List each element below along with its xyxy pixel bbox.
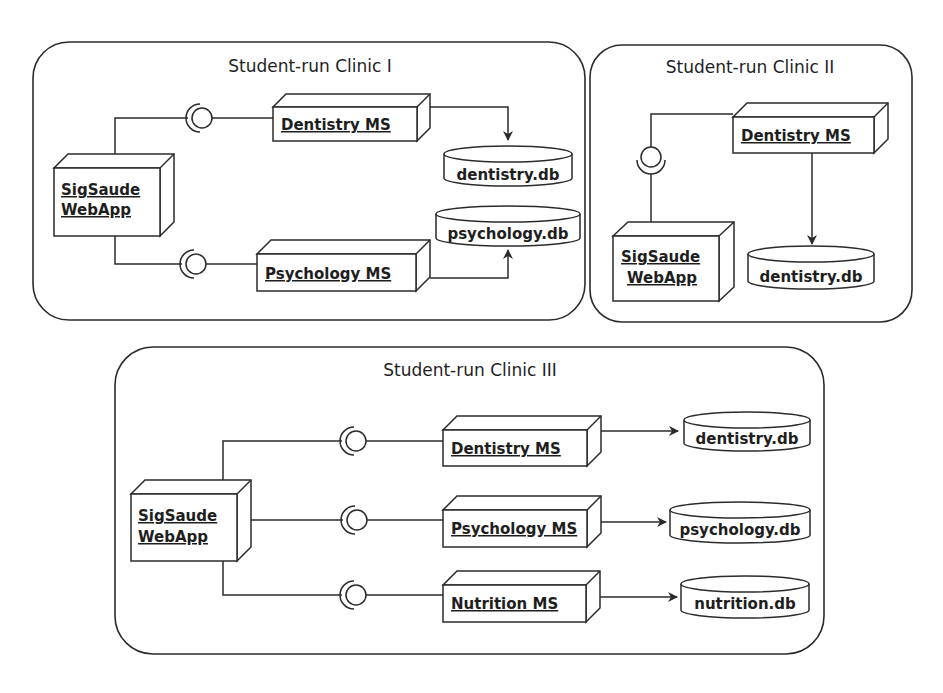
clinic-3-webapp-label-line2: WebApp (138, 528, 208, 546)
clinic-1-dentistry-db-label: dentistry.db (457, 166, 560, 184)
clinic-1-psychology-db: psychology.db (436, 206, 580, 246)
clinic-3-dentistry-db: dentistry.db (684, 412, 810, 451)
clinic-3-nutrition-db: nutrition.db (681, 576, 809, 618)
clinic-3-dentistry-ms-node: Dentistry MS (443, 416, 601, 466)
clinic-3-psychology-db-label: psychology.db (679, 521, 800, 539)
deployment-diagram: Student-run Clinic I SigSaude WebApp Den… (0, 0, 943, 693)
clinic-3-psychology-ms-label: Psychology MS (451, 520, 577, 538)
clinic-2-dentistry-ms-node: Dentistry MS (733, 103, 888, 153)
clinic-1-dentistry-ms-label: Dentistry MS (281, 116, 391, 134)
clinic-1-webapp-label-line1: SigSaude (61, 181, 140, 199)
clinic-2-title: Student-run Clinic II (666, 57, 835, 77)
clinic-1-psychology-db-label: psychology.db (447, 225, 568, 243)
clinic-3-dentistry-db-label: dentistry.db (696, 430, 799, 448)
clinic-2-webapp-label-line2: WebApp (627, 269, 697, 287)
clinic-3-webapp-label-line1: SigSaude (138, 507, 217, 525)
clinic-3-webapp-node: SigSaude WebApp (131, 480, 251, 561)
clinic-3-psychology-ms-node: Psychology MS (443, 496, 601, 547)
clinic-1-webapp-label-line2: WebApp (61, 201, 131, 219)
clinic-2-dentistry-db-label: dentistry.db (760, 268, 863, 286)
clinic-1-psychology-ms-label: Psychology MS (265, 265, 391, 283)
clinic-3-nutrition-ms-node: Nutrition MS (443, 571, 600, 622)
clinic-3-nutrition-db-label: nutrition.db (694, 595, 796, 613)
clinic-1-title: Student-run Clinic I (228, 56, 392, 76)
clinic-2-dentistry-ms-label: Dentistry MS (741, 127, 851, 145)
clinic-2-dentistry-db: dentistry.db (748, 246, 874, 289)
clinic-3-title: Student-run Clinic III (383, 360, 557, 380)
clinic-3-nutrition-ms-label: Nutrition MS (451, 595, 558, 613)
clinic-3-psychology-db: psychology.db (670, 502, 810, 543)
clinic-1-dentistry-ms-node: Dentistry MS (273, 94, 430, 141)
clinic-2-webapp-label-line1: SigSaude (621, 248, 700, 266)
clinic-1-psychology-ms-node: Psychology MS (257, 240, 430, 291)
clinic-3-dentistry-ms-label: Dentistry MS (451, 440, 561, 458)
clinic-1-dentistry-db: dentistry.db (444, 146, 572, 186)
clinic-1-webapp-node: SigSaude WebApp (54, 154, 174, 236)
clinic-2-webapp-node: SigSaude WebApp (613, 222, 734, 301)
